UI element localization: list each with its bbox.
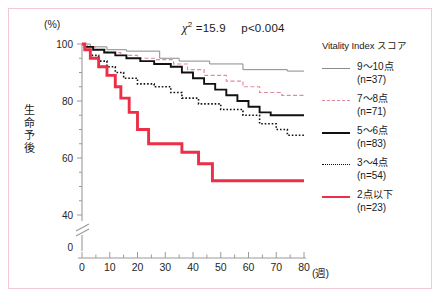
svg-text:30: 30 xyxy=(159,261,171,273)
svg-text:80: 80 xyxy=(62,96,74,107)
legend-swatch-icon-5-6 xyxy=(322,127,350,139)
svg-text:0: 0 xyxy=(67,242,73,253)
legend-item-7-8[interactable]: 7～8点 (n=71) xyxy=(322,93,434,118)
legend-text-7-8: 7～8点 (n=71) xyxy=(357,93,388,118)
svg-text:0: 0 xyxy=(79,261,85,273)
svg-text:70: 70 xyxy=(270,261,282,273)
legend-title: Vitality Index スコア xyxy=(322,38,434,52)
legend-item-3-4[interactable]: 3～4点 (n=54) xyxy=(322,157,434,182)
svg-text:20: 20 xyxy=(132,261,144,273)
svg-text:80: 80 xyxy=(298,261,310,273)
legend-n-7-8: (n=71) xyxy=(357,106,386,117)
y-axis-label-char-1: 命 xyxy=(22,117,36,130)
legend-label-3-4: 3～4点 xyxy=(357,157,388,168)
svg-text:60: 60 xyxy=(243,261,255,273)
y-axis-unit: (%) xyxy=(44,18,60,30)
legend-item-2-or-less[interactable]: 2点以下 (n=23) xyxy=(322,189,434,214)
legend-n-3-4: (n=54) xyxy=(357,170,386,181)
p-value: p<0.004 xyxy=(241,22,284,34)
svg-text:10: 10 xyxy=(104,261,116,273)
legend-text-2-or-less: 2点以下 (n=23) xyxy=(357,189,393,214)
legend-n-5-6: (n=83) xyxy=(357,138,386,149)
chi-square-value: =15.9 xyxy=(196,22,226,34)
legend-label-2-or-less: 2点以下 xyxy=(357,189,393,200)
legend-swatch-icon-2-or-less xyxy=(322,191,350,203)
legend-item-5-6[interactable]: 5～6点 (n=83) xyxy=(322,125,434,150)
svg-text:40: 40 xyxy=(62,210,74,221)
legend: Vitality Index スコア 9～10点 (n=37) 7～8点 (n=… xyxy=(322,38,434,221)
chi-square-exponent: 2 xyxy=(188,20,193,29)
legend-swatch-icon-7-8 xyxy=(322,95,350,107)
series-line-4 xyxy=(82,44,304,135)
svg-text:40: 40 xyxy=(187,261,199,273)
svg-text:60: 60 xyxy=(62,153,74,164)
legend-text-9-10: 9～10点 (n=37) xyxy=(357,61,394,86)
legend-label-9-10: 9～10点 xyxy=(357,61,394,72)
svg-text:100: 100 xyxy=(56,39,73,50)
x-axis-unit: (週) xyxy=(312,265,329,280)
legend-text-5-6: 5～6点 (n=83) xyxy=(357,125,388,150)
legend-swatch-icon-3-4 xyxy=(322,159,350,171)
legend-text-3-4: 3～4点 (n=54) xyxy=(357,157,388,182)
svg-text:50: 50 xyxy=(215,261,227,273)
legend-label-7-8: 7～8点 xyxy=(357,93,388,104)
y-axis-label-char-0: 生 xyxy=(22,104,36,117)
y-axis-label-char-3: 後 xyxy=(22,142,36,155)
y-axis-label-char-2: 予 xyxy=(22,129,36,142)
legend-swatch-icon-9-10 xyxy=(322,63,350,75)
statistics-annotation: χ2 =15.9 p<0.004 xyxy=(182,20,285,36)
y-axis-label: 生 命 予 後 xyxy=(22,104,36,154)
legend-item-9-10[interactable]: 9～10点 (n=37) xyxy=(322,61,434,86)
legend-n-2-or-less: (n=23) xyxy=(357,202,386,213)
legend-label-5-6: 5～6点 xyxy=(357,125,388,136)
legend-n-9-10: (n=37) xyxy=(357,74,386,85)
